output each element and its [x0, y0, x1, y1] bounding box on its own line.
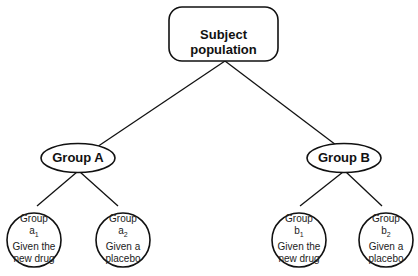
group-a2-line3: Given a: [96, 241, 150, 253]
edge-root-group-b: [225, 61, 340, 148]
edge-root-group-a: [88, 61, 225, 153]
group-a-label: Group A: [41, 150, 115, 165]
group-b2-id: b2: [359, 225, 413, 241]
group-b-label: Group B: [307, 150, 381, 165]
edge-group-a-a1: [37, 172, 77, 206]
group-a2-id: a2: [96, 225, 150, 241]
root-node-label: Subject population: [169, 27, 278, 57]
edge-group-b-b1: [300, 172, 343, 206]
group-b2-line1: Group: [359, 213, 413, 225]
edge-group-a-a2: [80, 172, 118, 206]
group-b2-line4: placebo: [359, 253, 413, 265]
group-b1-line3: Given the: [272, 241, 326, 253]
group-a1-line3: Given the: [7, 241, 61, 253]
group-a1-label: Group a1 Given the new drug: [7, 213, 61, 265]
group-a1-line4: new drug: [7, 253, 61, 265]
group-a1-id: a1: [7, 225, 61, 241]
group-a2-line4: placebo: [96, 253, 150, 265]
group-b1-label: Group b1 Given the new drug: [272, 213, 326, 265]
group-b2-label: Group b2 Given a placebo: [359, 213, 413, 265]
group-b1-line1: Group: [272, 213, 326, 225]
group-b2-line3: Given a: [359, 241, 413, 253]
group-b1-id: b1: [272, 225, 326, 241]
group-a2-line1: Group: [96, 213, 150, 225]
group-a1-line1: Group: [7, 213, 61, 225]
group-a2-label: Group a2 Given a placebo: [96, 213, 150, 265]
edge-group-b-b2: [346, 172, 382, 206]
group-b1-line4: new drug: [272, 253, 326, 265]
